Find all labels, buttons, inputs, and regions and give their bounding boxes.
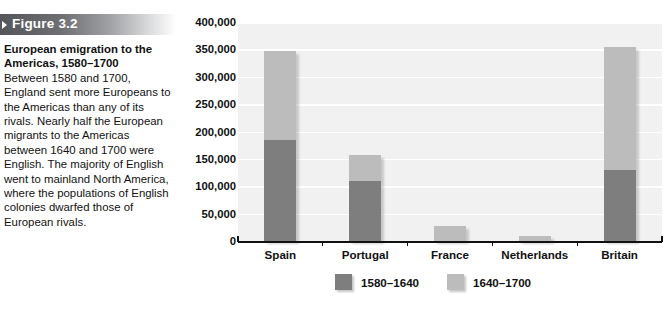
y-axis-tick-label: 400,000 <box>180 16 236 28</box>
bar-segment <box>349 155 381 181</box>
bar-segment <box>349 181 381 241</box>
bar-segment <box>434 226 466 241</box>
legend-label: 1580–1640 <box>361 276 419 289</box>
x-axis-tick <box>577 241 578 246</box>
legend-entry: 1580–1640 <box>335 274 419 290</box>
x-axis-category-label: France <box>431 248 469 261</box>
x-axis-category-label: Netherlands <box>501 248 568 261</box>
x-axis-line <box>238 241 662 243</box>
x-axis-category-label: Spain <box>265 248 297 261</box>
x-axis-tick <box>407 241 408 246</box>
figure-caption-title: European emigration to the Americas, 158… <box>4 42 174 71</box>
y-axis-tick-label: 150,000 <box>180 153 236 165</box>
x-axis-tick <box>322 241 323 246</box>
bar-segment <box>264 140 296 241</box>
plot-area <box>238 22 662 241</box>
triangle-right-icon <box>2 21 7 29</box>
legend-color-swatch <box>335 274 352 290</box>
figure-number-banner: Figure 3.2 <box>0 14 176 35</box>
bar-segment <box>604 47 636 170</box>
x-axis-tick <box>492 241 493 246</box>
x-axis-tick <box>237 236 238 242</box>
y-axis-tick-label: 200,000 <box>180 126 236 138</box>
figure-caption-body: European emigration to the Americas, 158… <box>4 42 174 229</box>
x-axis-category-label: Britain <box>601 248 638 261</box>
y-axis-tick-label: 100,000 <box>180 180 236 192</box>
gridline <box>238 132 662 134</box>
gridline <box>238 49 662 51</box>
y-axis-tick-label: 50,000 <box>180 208 236 220</box>
legend-label: 1640–1700 <box>473 276 531 289</box>
figure-caption-column: Figure 3.2 European emigration to the Am… <box>0 0 180 311</box>
gridline <box>238 22 662 24</box>
y-axis-tick-label: 250,000 <box>180 98 236 110</box>
gridline <box>238 186 662 188</box>
gridline <box>238 214 662 216</box>
legend-entry: 1640–1700 <box>447 274 531 290</box>
y-axis-tick-label: 350,000 <box>180 43 236 55</box>
bar-segment <box>264 51 296 140</box>
y-axis-tick-label: 300,000 <box>180 71 236 83</box>
legend-color-swatch <box>447 274 464 290</box>
bar-segment <box>604 170 636 241</box>
chart-legend: 1580–16401640–1700 <box>335 274 531 290</box>
figure-number-label: Figure 3.2 <box>12 16 78 31</box>
figure-caption-text: Between 1580 and 1700, England sent more… <box>4 72 171 228</box>
gridline <box>238 77 662 79</box>
gridline <box>238 104 662 106</box>
x-axis-tick <box>661 236 662 242</box>
y-axis-tick-label: 0 <box>180 235 236 247</box>
y-axis: 050,000100,000150,000200,000250,000300,0… <box>180 0 236 250</box>
bar-chart: 050,000100,000150,000200,000250,000300,0… <box>180 0 667 311</box>
x-axis-category-label: Portugal <box>342 248 389 261</box>
gridline <box>238 159 662 161</box>
